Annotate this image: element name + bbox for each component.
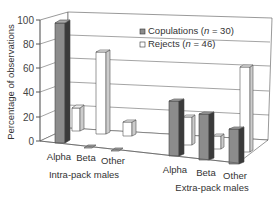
group-label-intra: Intra-pack males xyxy=(49,169,119,180)
bar-intra-other-rejects xyxy=(123,120,136,136)
y-tick-40: 40 xyxy=(23,87,35,98)
y-tick-20: 20 xyxy=(23,112,35,123)
legend-copulations: Copulations (n = 30) xyxy=(148,25,234,36)
label-intra-beta: Beta xyxy=(76,152,96,163)
y-axis: 100 80 60 40 20 0 Percentage of observat… xyxy=(5,15,40,147)
legend-swatch-copulations xyxy=(140,29,145,34)
bar-chart-3d: 100 80 60 40 20 0 Percentage of observat… xyxy=(0,0,276,203)
bar-intra-alpha-copulations xyxy=(55,20,70,143)
label-extra-beta: Beta xyxy=(196,167,216,178)
bar-extra-alpha-copulations xyxy=(169,99,184,156)
bar-intra-beta-rejects xyxy=(96,50,110,134)
legend-rejects: Rejects (n = 46) xyxy=(148,38,215,49)
group-label-extra: Extra-pack males xyxy=(175,182,249,193)
label-intra-other: Other xyxy=(101,155,125,166)
legend-swatch-rejects xyxy=(140,42,145,47)
bar-extra-other-copulations xyxy=(229,127,244,164)
y-tick-60: 60 xyxy=(23,63,35,74)
bar-extra-alpha-rejects xyxy=(183,115,195,145)
y-tick-100: 100 xyxy=(17,15,34,26)
label-extra-alpha: Alpha xyxy=(163,164,188,175)
bar-extra-beta-copulations xyxy=(199,112,214,160)
y-tick-80: 80 xyxy=(23,39,35,50)
label-extra-other: Other xyxy=(223,170,247,181)
bar-intra-alpha-rejects xyxy=(72,105,84,131)
bar-extra-beta-rejects xyxy=(213,134,224,149)
y-tick-0: 0 xyxy=(28,136,34,147)
label-intra-alpha: Alpha xyxy=(47,151,72,162)
y-axis-label: Percentage of observations xyxy=(5,24,16,140)
